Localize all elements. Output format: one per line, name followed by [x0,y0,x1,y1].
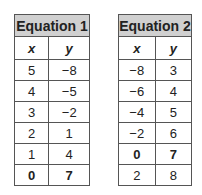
y-cell: 4 [155,81,191,102]
equation-2-table: Equation 2 x y −83 −64 −45 −26 07 28 [118,14,192,186]
equation-1-table: Equation 1 x y 5−8 4−5 3−2 21 14 07 [14,14,90,186]
column-header-x: x [119,37,156,60]
column-header-y: y [49,37,90,60]
x-cell: −2 [119,123,156,144]
table-row: 4−5 [15,81,90,102]
x-cell: 4 [15,81,49,102]
x-cell: 3 [15,102,49,123]
table-row: 28 [119,165,192,186]
x-cell: 2 [15,123,49,144]
x-cell: 1 [15,144,49,165]
x-cell: 0 [119,144,156,165]
table-row-highlighted: 07 [119,144,192,165]
table-row-highlighted: 07 [15,165,90,186]
table-title: Equation 1 [15,15,90,37]
table-row: −45 [119,102,192,123]
x-cell: −6 [119,81,156,102]
y-cell: 4 [49,144,90,165]
column-header-y: y [155,37,191,60]
x-cell: −4 [119,102,156,123]
y-cell: −8 [49,60,90,81]
table-row: −64 [119,81,192,102]
table-row: −26 [119,123,192,144]
x-cell: −8 [119,60,156,81]
x-cell: 2 [119,165,156,186]
y-cell: 5 [155,102,191,123]
x-cell: 0 [15,165,49,186]
table-row: 5−8 [15,60,90,81]
table-row: −83 [119,60,192,81]
table-row: 14 [15,144,90,165]
column-header-x: x [15,37,49,60]
table-row: 21 [15,123,90,144]
y-cell: 7 [155,144,191,165]
y-cell: 3 [155,60,191,81]
y-cell: 6 [155,123,191,144]
y-cell: −5 [49,81,90,102]
y-cell: −2 [49,102,90,123]
y-cell: 1 [49,123,90,144]
table-title: Equation 2 [119,15,192,37]
table-row: 3−2 [15,102,90,123]
x-cell: 5 [15,60,49,81]
y-cell: 7 [49,165,90,186]
y-cell: 8 [155,165,191,186]
